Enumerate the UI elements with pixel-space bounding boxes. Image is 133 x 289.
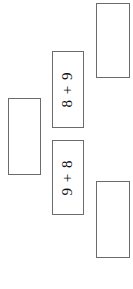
card-expression-text: 8 + 9 — [61, 72, 76, 108]
expression-card-9-plus-8[interactable]: 9 + 8 — [52, 140, 84, 215]
card-expression-text: 9 + 8 — [61, 160, 76, 196]
flashcard-canvas: 8 + 99 + 8 — [0, 0, 133, 289]
empty-card-bottom-right[interactable] — [96, 181, 130, 258]
empty-card-left[interactable] — [8, 98, 41, 175]
expression-card-8-plus-9[interactable]: 8 + 9 — [52, 51, 84, 128]
empty-card-top-right[interactable] — [96, 3, 130, 78]
